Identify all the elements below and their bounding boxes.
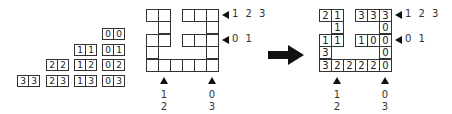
pair-digit: 2: [86, 60, 96, 70]
grid-cell: 0: [379, 34, 392, 47]
index-pair: 22: [46, 59, 69, 71]
index-pair: 00: [102, 28, 125, 40]
grid-cell: [206, 34, 219, 47]
grid-cell: 0: [379, 46, 392, 59]
pair-digit: 2: [58, 60, 68, 70]
column-marker-arrow-icon: [208, 77, 216, 84]
row-marker-label: 0 1: [405, 33, 427, 44]
pair-digit: 3: [86, 76, 96, 86]
row-marker-label: 0 1: [232, 33, 254, 44]
index-pair: 12: [74, 59, 97, 71]
grid-cell: 1: [331, 9, 344, 22]
index-pair: 02: [102, 59, 125, 71]
row-marker-arrow-icon: [395, 11, 402, 19]
pair-digit: 0: [114, 29, 124, 39]
column-marker-label: 1: [332, 89, 342, 101]
row-marker-arrow-icon: [222, 11, 229, 19]
pair-digit: 0: [103, 76, 114, 86]
grid-cell: [146, 46, 159, 59]
pair-digit: 3: [18, 76, 29, 86]
index-pair: 13: [74, 75, 97, 87]
index-pair: 01: [102, 44, 125, 56]
pair-digit: 1: [75, 60, 86, 70]
pair-digit: 0: [103, 60, 114, 70]
index-pair: 03: [102, 75, 125, 87]
grid-cell: [206, 46, 219, 59]
pair-digit: 2: [114, 60, 124, 70]
pair-digit: 3: [29, 76, 39, 86]
column-marker-label: 3: [207, 101, 217, 113]
column-marker-label: 0: [380, 89, 390, 101]
row-marker-label: 1 2 3: [232, 8, 267, 19]
right-arrow-icon: [268, 45, 306, 69]
grid-cell: [158, 34, 171, 47]
pair-digit: 3: [114, 76, 124, 86]
grid-cell: 0: [379, 21, 392, 34]
column-marker-label: 0: [207, 89, 217, 101]
column-marker-label: 2: [332, 101, 342, 113]
pair-digit: 1: [75, 76, 86, 86]
grid-cell: 1: [331, 34, 344, 47]
pair-digit: 1: [114, 45, 124, 55]
index-pair: 23: [46, 75, 69, 87]
grid-cell: [206, 9, 219, 22]
grid-cell: [158, 9, 171, 22]
grid-cell: [158, 21, 171, 34]
pair-digit: 2: [47, 76, 58, 86]
pair-digit: 0: [103, 45, 114, 55]
column-marker-arrow-icon: [381, 77, 389, 84]
grid-cell: 1: [331, 21, 344, 34]
grid-cell: 3: [319, 46, 332, 59]
grid-cell: 0: [379, 59, 392, 72]
column-marker-label: 1: [159, 89, 169, 101]
pair-digit: 2: [47, 60, 58, 70]
column-marker-arrow-icon: [333, 77, 341, 84]
row-marker-arrow-icon: [222, 36, 229, 44]
grid-cell: [206, 59, 219, 72]
pair-digit: 3: [58, 76, 68, 86]
pair-digit: 0: [103, 29, 114, 39]
column-marker-arrow-icon: [160, 77, 168, 84]
column-marker-label: 3: [380, 101, 390, 113]
row-marker-arrow-icon: [395, 36, 402, 44]
pair-digit: 1: [86, 45, 96, 55]
index-pair: 33: [17, 75, 40, 87]
grid-cell: [206, 21, 219, 34]
row-marker-label: 1 2 3: [405, 8, 440, 19]
grid-cell: 3: [379, 9, 392, 22]
index-pair: 11: [74, 44, 97, 56]
pair-digit: 1: [75, 45, 86, 55]
column-marker-label: 2: [159, 101, 169, 113]
